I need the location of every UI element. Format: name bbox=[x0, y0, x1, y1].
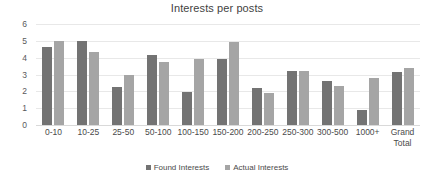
y-tick-label: 5 bbox=[22, 36, 27, 46]
bar bbox=[322, 81, 332, 125]
x-tick-label: 50-100 bbox=[141, 127, 176, 138]
x-tick-label: 1000+ bbox=[350, 127, 385, 138]
bar-group bbox=[322, 24, 344, 125]
x-tick-label: 200-250 bbox=[245, 127, 280, 138]
x-tick-label: 150-200 bbox=[211, 127, 246, 138]
bar bbox=[182, 92, 192, 125]
y-tick-label: 1 bbox=[22, 103, 27, 113]
bar bbox=[54, 41, 64, 125]
bars-layer bbox=[36, 24, 420, 125]
bar-group bbox=[357, 24, 379, 125]
bar bbox=[159, 62, 169, 125]
bar-group bbox=[287, 24, 309, 125]
legend-label: Found Interests bbox=[154, 163, 210, 172]
bar bbox=[77, 41, 87, 125]
y-axis: 6543210 bbox=[0, 24, 32, 125]
x-axis: 0-1010-2525-5050-100100-150150-200200-25… bbox=[36, 127, 420, 153]
bar-group bbox=[392, 24, 414, 125]
chart-legend: Found InterestsActual Interests bbox=[0, 163, 434, 172]
bar bbox=[252, 88, 262, 125]
x-tick-label: 300-500 bbox=[315, 127, 350, 138]
y-tick-label: 0 bbox=[22, 120, 27, 130]
y-tick-label: 6 bbox=[22, 19, 27, 29]
bar bbox=[42, 47, 52, 125]
bar bbox=[357, 110, 367, 125]
x-tick-label: 250-300 bbox=[280, 127, 315, 138]
y-tick-label: 4 bbox=[22, 53, 27, 63]
bar bbox=[112, 87, 122, 125]
legend-swatch-icon bbox=[146, 165, 151, 170]
bar bbox=[287, 71, 297, 125]
bar-group bbox=[42, 24, 64, 125]
bar-chart: Interests per posts 6543210 0-1010-2525-… bbox=[0, 0, 434, 179]
chart-title: Interests per posts bbox=[0, 2, 434, 14]
legend-item[interactable]: Actual Interests bbox=[225, 163, 288, 172]
x-tick-label: 25-50 bbox=[106, 127, 141, 138]
bar bbox=[392, 72, 402, 125]
bar bbox=[89, 52, 99, 125]
bar-group bbox=[182, 24, 204, 125]
bar-group bbox=[112, 24, 134, 125]
bar bbox=[369, 78, 379, 125]
x-tick-label: 10-25 bbox=[71, 127, 106, 138]
bar bbox=[124, 75, 134, 125]
gridline-0 bbox=[36, 125, 420, 126]
plot-area bbox=[36, 24, 420, 125]
bar bbox=[334, 86, 344, 125]
bar-group bbox=[77, 24, 99, 125]
y-tick-label: 3 bbox=[22, 70, 27, 80]
bar-group bbox=[252, 24, 274, 125]
bar bbox=[264, 93, 274, 125]
x-tick-label: Grand Total bbox=[385, 127, 420, 148]
bar-group bbox=[147, 24, 169, 125]
x-tick-label: 100-150 bbox=[176, 127, 211, 138]
bar bbox=[404, 68, 414, 125]
bar bbox=[194, 59, 204, 125]
bar bbox=[217, 59, 227, 125]
y-tick-label: 2 bbox=[22, 86, 27, 96]
legend-swatch-icon bbox=[225, 165, 230, 170]
x-tick-label: 0-10 bbox=[36, 127, 71, 138]
legend-label: Actual Interests bbox=[233, 163, 288, 172]
legend-item[interactable]: Found Interests bbox=[146, 163, 210, 172]
bar bbox=[147, 55, 157, 125]
bar bbox=[229, 42, 239, 125]
bar bbox=[299, 71, 309, 125]
bar-group bbox=[217, 24, 239, 125]
